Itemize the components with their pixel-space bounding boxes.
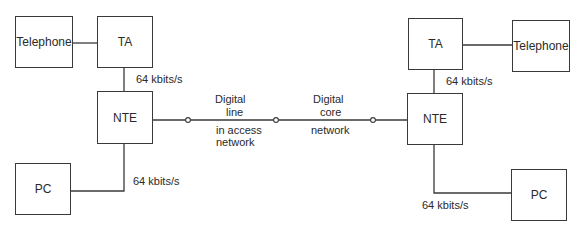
left-ta-label: TA xyxy=(118,35,132,49)
left-ta-nte-rate: 64 kbits/s xyxy=(136,73,182,85)
right-pc-label: PC xyxy=(531,188,548,202)
isdn-connection-diagram: Telephone TA 64 kbits/s NTE PC 64 kbits/… xyxy=(0,0,580,228)
core-label-top-1: Digital xyxy=(313,93,344,105)
connector-lines xyxy=(0,0,580,228)
left-nte-label: NTE xyxy=(113,111,137,125)
interface-point-icon xyxy=(186,118,191,123)
left-nte-box: NTE xyxy=(97,91,153,144)
left-telephone-label: Telephone xyxy=(16,35,71,49)
right-telephone-box: Telephone xyxy=(512,20,570,72)
access-label-bottom-2: network xyxy=(216,136,255,148)
left-nte-pc-rate: 64 kbits/s xyxy=(133,175,179,187)
access-label-top-1: Digital xyxy=(215,93,246,105)
access-label-top-2: line xyxy=(226,106,243,118)
left-ta-box: TA xyxy=(97,16,153,68)
core-label-top-2: core xyxy=(320,106,341,118)
left-pc-box: PC xyxy=(15,163,71,215)
right-ta-label: TA xyxy=(428,37,442,51)
right-pc-box: PC xyxy=(511,169,567,221)
access-label-bottom-1: in access xyxy=(216,124,262,136)
right-nte-pc-rate: 64 kbits/s xyxy=(422,199,468,211)
right-ta-nte-rate: 64 kbits/s xyxy=(446,75,492,87)
interface-point-icon xyxy=(274,118,279,123)
right-nte-box: NTE xyxy=(407,93,463,145)
right-telephone-label: Telephone xyxy=(513,39,568,53)
core-label-bottom: network xyxy=(311,124,350,136)
interface-point-icon xyxy=(371,118,376,123)
right-nte-label: NTE xyxy=(423,112,447,126)
left-pc-label: PC xyxy=(35,182,52,196)
right-ta-box: TA xyxy=(408,18,463,70)
left-telephone-box: Telephone xyxy=(15,16,73,68)
